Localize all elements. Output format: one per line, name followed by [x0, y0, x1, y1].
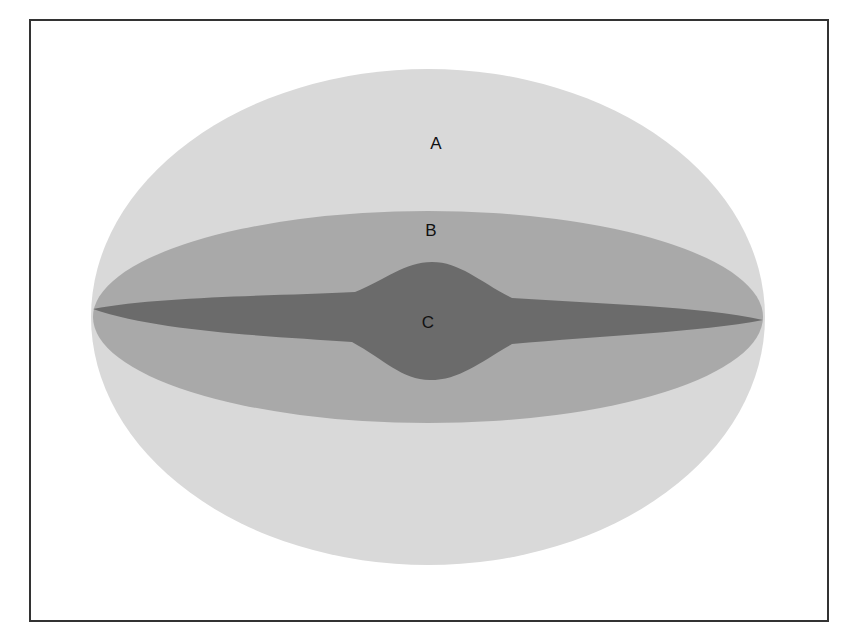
label-c: C: [422, 313, 434, 333]
label-a: A: [430, 134, 441, 154]
label-b: B: [425, 221, 436, 241]
